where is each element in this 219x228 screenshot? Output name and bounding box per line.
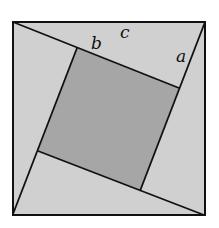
label-a: a — [176, 46, 186, 66]
label-c: c — [120, 22, 130, 42]
label-b: b — [91, 33, 102, 53]
pythagorean-diagram: b c a — [0, 0, 219, 228]
